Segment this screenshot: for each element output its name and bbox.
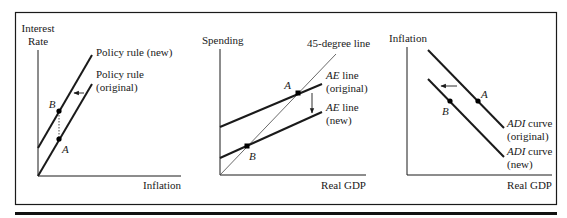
forty-five-degree-label: 45-degree line [307, 37, 370, 49]
point-b-label: B [249, 150, 256, 162]
policy-rule-new-line [38, 55, 92, 148]
point-b [447, 98, 452, 103]
adi-curve-original [428, 50, 504, 128]
point-b [245, 144, 250, 149]
point-a [56, 136, 61, 141]
ae-line-new [220, 112, 322, 158]
adi-curve-new [428, 79, 504, 157]
x-axis-label: Inflation [143, 179, 181, 191]
point-a [475, 98, 480, 103]
x-axis-label: Real GDP [507, 179, 552, 191]
ae-new-label-line2: (new) [326, 114, 352, 127]
point-a-label: A [283, 79, 291, 91]
adi-original-label-line1: ADI curve [506, 117, 553, 129]
adi-original-label-line2: (original) [507, 130, 549, 143]
point-a [296, 91, 301, 96]
y-axis-label: Spending [202, 34, 244, 46]
ae-line-original [220, 84, 322, 127]
figure: Interest Rate Inflation B A Policy rule … [0, 0, 567, 218]
y-axis-label-line1: Interest [22, 22, 55, 34]
panel-ae-spending: Spending Real GDP A B 45-degree line AE … [202, 34, 370, 191]
policy-rule-new-label: Policy rule (new) [96, 46, 173, 59]
x-axis-label: Real GDP [321, 179, 366, 191]
ae-original-label-line1: AE line [325, 69, 359, 81]
panel-adi: Inflation Real GDP A B ADI curve (origin… [389, 32, 553, 191]
point-a-label: A [480, 88, 488, 100]
policy-rule-original-line [38, 84, 92, 176]
point-b-label: B [49, 98, 56, 110]
point-a-label: A [61, 143, 69, 155]
ae-new-label-line1: AE line [325, 101, 359, 113]
y-axis-label: Inflation [389, 32, 427, 44]
point-b-label: B [442, 105, 449, 117]
y-axis-label-line2: Rate [28, 35, 48, 47]
panel-policy-rule: Interest Rate Inflation B A Policy rule … [22, 22, 182, 191]
policy-rule-original-label-line1: Policy rule [96, 68, 144, 80]
point-b [56, 108, 61, 113]
policy-rule-original-label-line2: (original) [96, 81, 138, 94]
adi-new-label-line1: ADI curve [506, 145, 553, 157]
adi-new-label-line2: (new) [507, 158, 533, 171]
ae-original-label-line2: (original) [326, 82, 368, 95]
